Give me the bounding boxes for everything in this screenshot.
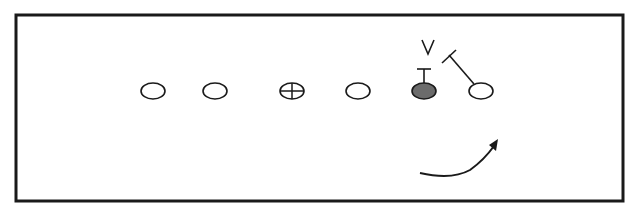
defender-v-label <box>422 40 434 54</box>
end-player-oval <box>469 83 493 99</box>
player-oval-2 <box>203 83 227 99</box>
player-oval-4 <box>346 83 370 99</box>
curved-motion-arrow-icon <box>420 139 498 176</box>
angled-block-marker-icon <box>442 50 474 84</box>
t-block-marker-icon <box>417 69 431 83</box>
center-crossed-oval-icon <box>280 83 304 99</box>
diagram-border <box>16 15 623 201</box>
play-diagram <box>0 0 638 210</box>
shaded-player-icon <box>412 83 436 99</box>
player-oval-1 <box>141 83 165 99</box>
